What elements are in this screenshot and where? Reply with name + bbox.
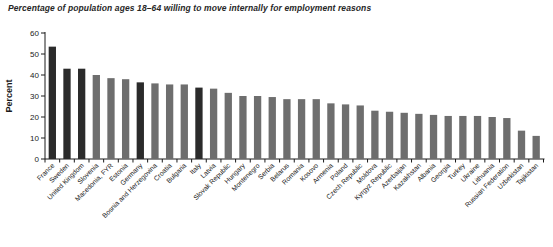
bar-serbia — [269, 97, 276, 159]
bar-romania — [298, 99, 305, 159]
bar-montenegro — [254, 96, 261, 159]
y-tick-label-10: 10 — [30, 134, 39, 143]
bar-chart-figure: Percentage of population ages 18–64 will… — [0, 0, 553, 247]
bar-lithuania — [489, 117, 496, 159]
bar-kazakhstan — [415, 114, 422, 159]
bar-kosovo — [313, 99, 320, 159]
bar-russian-federation — [503, 118, 510, 159]
bar-armenia — [327, 103, 334, 159]
y-tick-label-20: 20 — [30, 113, 39, 122]
bar-bosnia-and-herzegovina — [151, 83, 158, 159]
bar-macedonia-fyr — [107, 78, 114, 159]
bar-tajikistan — [533, 136, 540, 159]
y-tick-label-30: 30 — [30, 92, 39, 101]
bar-germany — [137, 82, 144, 159]
y-tick-label-0: 0 — [35, 155, 40, 164]
bar-czech-republic — [357, 105, 364, 159]
bar-sweden — [63, 69, 70, 159]
bar-georgia — [445, 116, 452, 159]
bar-ukraine — [474, 116, 481, 159]
bar-belarus — [283, 99, 290, 159]
bar-croatia — [166, 84, 173, 159]
y-tick-label-60: 60 — [30, 29, 39, 38]
bar-kyrgyz-republic — [386, 112, 393, 159]
bar-estonia — [122, 79, 129, 159]
bar-bulgaria — [181, 84, 188, 159]
bar-turkey — [459, 116, 466, 159]
bar-albania — [430, 115, 437, 159]
bar-italy — [195, 88, 202, 159]
bar-united-kingdom — [78, 69, 85, 159]
y-tick-label-50: 50 — [30, 50, 39, 59]
bar-hungary — [239, 96, 246, 159]
bar-slovenia — [93, 75, 100, 159]
bar-azerbaijan — [401, 113, 408, 159]
y-tick-label-40: 40 — [30, 71, 39, 80]
bar-uzbekistan — [518, 131, 525, 159]
bar-moldova — [371, 111, 378, 159]
bar-latvia — [210, 89, 217, 159]
bar-slovak-republic — [225, 93, 232, 159]
bar-france — [49, 47, 56, 159]
bar-poland — [342, 104, 349, 159]
bar-chart-canvas: 0102030405060FranceSwedenUnited KingdomS… — [0, 0, 553, 247]
y-axis-title: Percent — [4, 79, 14, 112]
